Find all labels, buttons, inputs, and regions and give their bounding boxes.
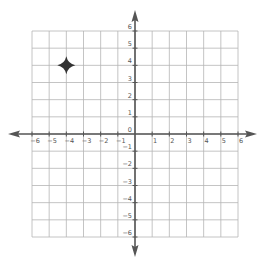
x-tick-label: 6 [239, 137, 243, 145]
tick-labels: −6−5−4−3−2−11234560123456−1−2−3−4−5−6 [30, 23, 243, 237]
coordinate-plane: −6−5−4−3−2−11234560123456−1−2−3−4−5−6 [0, 0, 265, 266]
plotted-points [57, 56, 75, 74]
x-tick-label: 3 [187, 137, 191, 145]
x-tick-label: 4 [205, 137, 209, 145]
y-tick-label: 3 [128, 75, 132, 83]
x-tick-label: 2 [170, 137, 174, 145]
y-tick-label: −4 [122, 195, 132, 203]
x-tick-label: 5 [222, 137, 226, 145]
x-tick-label: −2 [99, 137, 109, 145]
y-tick-label: 4 [128, 57, 132, 65]
y-tick-label: 5 [128, 40, 132, 48]
x-tick-label: −5 [47, 137, 57, 145]
y-tick-label: −2 [122, 160, 132, 168]
y-tick-label: −1 [122, 143, 132, 151]
x-tick-label: −6 [30, 137, 40, 145]
four-point-star-icon [57, 56, 75, 74]
y-tick-label: 2 [128, 92, 132, 100]
x-tick-label: 1 [153, 137, 157, 145]
y-tick-label: −3 [122, 178, 132, 186]
x-tick-label: −4 [65, 137, 75, 145]
y-tick-label: 1 [128, 109, 132, 117]
y-tick-label: −6 [122, 229, 132, 237]
y-tick-label: 0 [128, 126, 132, 134]
x-tick-label: −3 [82, 137, 92, 145]
y-tick-label: 6 [128, 23, 132, 31]
y-tick-label: −5 [122, 212, 132, 220]
